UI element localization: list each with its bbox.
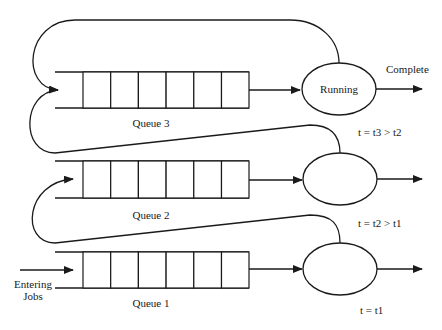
entering-label: Entering	[14, 278, 52, 290]
complete-label: Complete	[386, 63, 429, 75]
processor-1	[303, 243, 377, 295]
jobs-label: Jobs	[23, 290, 43, 302]
processor-2	[303, 153, 377, 205]
queue-3	[55, 72, 249, 108]
time-label-q2: t = t2 > t1	[358, 217, 402, 229]
time-label-q3: t = t3 > t2	[358, 126, 402, 138]
mlfq-diagram: Queue 3 Running Complete t = t3 > t2 Que…	[0, 0, 442, 330]
queue-2-label: Queue 2	[133, 209, 170, 221]
running-label: Running	[320, 83, 358, 95]
queue-3-label: Queue 3	[133, 117, 170, 129]
queue-1-label: Queue 1	[133, 297, 170, 309]
time-label-q1: t = t1	[360, 304, 383, 316]
queue-1	[55, 252, 249, 288]
queue-2	[55, 161, 249, 198]
